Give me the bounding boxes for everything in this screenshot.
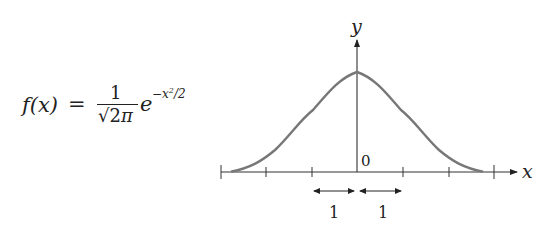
- y-axis-label: y: [350, 15, 362, 37]
- unit-label-right: 1: [378, 203, 388, 222]
- x-axis-label: x: [522, 160, 533, 182]
- origin-label: 0: [361, 152, 371, 170]
- normal-curve-graph: y x 0 1 1: [0, 0, 550, 227]
- unit-label-left: 1: [329, 203, 339, 222]
